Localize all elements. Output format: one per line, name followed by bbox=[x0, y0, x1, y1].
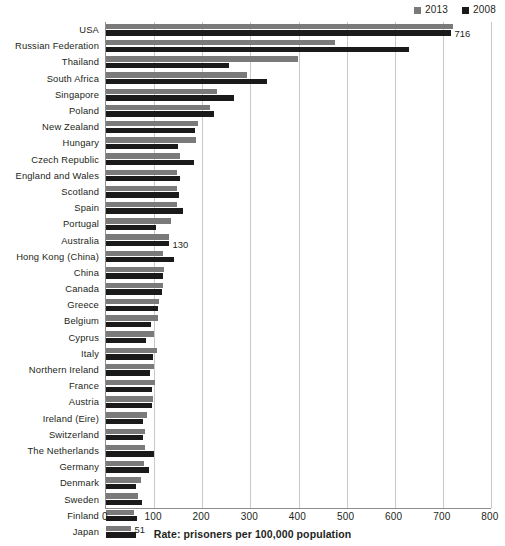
bar-2008 bbox=[106, 338, 146, 343]
x-tick-label: 200 bbox=[193, 511, 210, 523]
bar-2013 bbox=[106, 477, 141, 482]
category-label: Switzerland bbox=[49, 430, 99, 440]
category-label: Spain bbox=[74, 203, 99, 213]
bar-2013 bbox=[106, 493, 138, 498]
chart-legend: 20132008 bbox=[414, 3, 496, 17]
chart-row: USA716 bbox=[0, 22, 505, 38]
category-label: Greece bbox=[67, 300, 99, 310]
bar-2008 bbox=[106, 370, 150, 375]
chart-row: Portugal bbox=[0, 216, 505, 232]
bar-2013 bbox=[106, 396, 153, 401]
bar-2013 bbox=[106, 186, 177, 191]
bar-2013 bbox=[106, 251, 163, 256]
chart-row: Poland bbox=[0, 103, 505, 119]
category-label: France bbox=[69, 381, 99, 391]
x-tick-label: 100 bbox=[144, 511, 161, 523]
bar-2008 bbox=[106, 484, 136, 489]
row-bars bbox=[106, 281, 505, 297]
category-label: Italy bbox=[81, 349, 99, 359]
bar-2008 bbox=[106, 79, 267, 84]
bar-2008 bbox=[106, 176, 180, 181]
bar-2008 bbox=[106, 289, 162, 294]
category-label: Poland bbox=[69, 106, 99, 116]
bar-2008 bbox=[106, 208, 183, 213]
bar-2013 bbox=[106, 218, 171, 223]
chart-row: South Africa bbox=[0, 71, 505, 87]
x-tick-label: 700 bbox=[433, 511, 450, 523]
row-bars bbox=[106, 216, 505, 232]
row-bars: 716 bbox=[106, 22, 505, 38]
category-label: Northern Ireland bbox=[29, 365, 99, 375]
category-label: Austria bbox=[69, 397, 99, 407]
chart-row: Sweden bbox=[0, 491, 505, 507]
chart-row: Scotland bbox=[0, 184, 505, 200]
legend-swatch-icon bbox=[462, 7, 469, 14]
row-bars bbox=[106, 249, 505, 265]
bar-2008 bbox=[106, 47, 409, 52]
chart-row: New Zealand bbox=[0, 119, 505, 135]
chart-row: Hungary bbox=[0, 135, 505, 151]
legend-entry-2008: 2008 bbox=[462, 5, 496, 15]
prison-rate-bar-chart: 20132008 USA716Russian FederationThailan… bbox=[0, 0, 505, 546]
bar-2008 bbox=[106, 111, 214, 116]
chart-row: Cyprus bbox=[0, 330, 505, 346]
bar-2013 bbox=[106, 153, 180, 158]
bar-value-label: 716 bbox=[451, 29, 471, 38]
bar-2013 bbox=[106, 429, 145, 434]
category-label: Sweden bbox=[64, 495, 99, 505]
category-label: Germany bbox=[59, 462, 99, 472]
bar-2013 bbox=[106, 364, 154, 369]
category-label: Belgium bbox=[64, 316, 99, 326]
bar-2013 bbox=[106, 234, 169, 239]
bar-2013 bbox=[106, 105, 210, 110]
category-label: Singapore bbox=[55, 90, 99, 100]
x-tick-label: 400 bbox=[289, 511, 306, 523]
bar-2008 bbox=[106, 306, 158, 311]
bar-2008 bbox=[106, 403, 152, 408]
category-label: Portugal bbox=[63, 219, 99, 229]
row-bars bbox=[106, 313, 505, 329]
bar-2008 bbox=[106, 225, 156, 230]
bar-2013 bbox=[106, 380, 155, 385]
row-bars bbox=[106, 330, 505, 346]
legend-entry-2013: 2013 bbox=[414, 5, 448, 15]
bar-rows: USA716Russian FederationThailandSouth Af… bbox=[0, 22, 505, 508]
row-bars bbox=[106, 411, 505, 427]
bar-value-label: 130 bbox=[169, 240, 189, 249]
bar-2008 bbox=[106, 257, 174, 262]
x-tick-label: 600 bbox=[385, 511, 402, 523]
row-bars bbox=[106, 200, 505, 216]
row-bars bbox=[106, 378, 505, 394]
category-label: The Netherlands bbox=[27, 446, 99, 456]
row-bars bbox=[106, 135, 505, 151]
bar-2013 bbox=[106, 24, 453, 29]
row-bars bbox=[106, 54, 505, 70]
bar-2008 bbox=[106, 95, 234, 100]
bar-2008 bbox=[106, 241, 169, 246]
row-bars bbox=[106, 119, 505, 135]
row-bars bbox=[106, 38, 505, 54]
row-bars bbox=[106, 491, 505, 507]
row-bars bbox=[106, 152, 505, 168]
chart-row: Russian Federation bbox=[0, 38, 505, 54]
bar-2013 bbox=[106, 283, 163, 288]
row-bars bbox=[106, 184, 505, 200]
category-label: South Africa bbox=[47, 74, 99, 84]
chart-row: The Netherlands bbox=[0, 443, 505, 459]
legend-label: 2013 bbox=[425, 5, 448, 15]
row-bars bbox=[106, 394, 505, 410]
category-label: Denmark bbox=[60, 478, 99, 488]
bar-2013 bbox=[106, 56, 298, 61]
category-label: Czech Republic bbox=[31, 155, 99, 165]
row-bars bbox=[106, 346, 505, 362]
legend-label: 2008 bbox=[473, 5, 496, 15]
bar-2008 bbox=[106, 144, 178, 149]
bar-2008 bbox=[106, 322, 151, 327]
x-axis-ticks: 0100200300400500600700800 bbox=[0, 511, 505, 525]
row-bars bbox=[106, 443, 505, 459]
category-label: China bbox=[74, 268, 99, 278]
chart-row: Germany bbox=[0, 459, 505, 475]
bar-2013 bbox=[106, 89, 217, 94]
category-label: USA bbox=[79, 25, 99, 35]
category-label: Scotland bbox=[61, 187, 99, 197]
